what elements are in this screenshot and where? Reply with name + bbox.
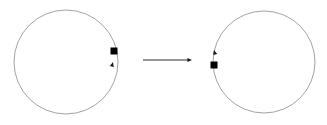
right-circle-square-marker — [211, 62, 218, 69]
left-circle — [14, 10, 118, 114]
right-circle — [213, 11, 315, 113]
left-circle-direction-arrowhead — [110, 62, 114, 67]
transformation-arrow-head — [187, 58, 192, 62]
diagram-svg — [0, 0, 327, 125]
left-circle-square-marker — [111, 48, 118, 55]
right-circle-direction-arrowhead — [213, 50, 217, 55]
diagram-canvas — [0, 0, 327, 125]
